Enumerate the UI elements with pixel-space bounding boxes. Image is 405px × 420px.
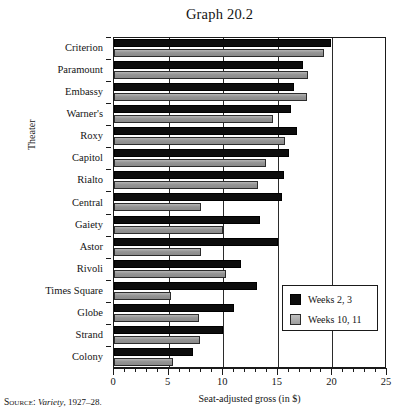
bar-weeks-10-11 [114, 226, 223, 234]
bar-weeks-2-3 [114, 348, 193, 356]
bar-weeks-2-3 [114, 216, 260, 224]
bar-weeks-2-3 [114, 193, 282, 201]
x-axis-minor-tick [211, 368, 212, 372]
y-axis-tick [106, 81, 111, 82]
x-axis-tick-label: 5 [165, 376, 170, 387]
y-axis-tick [106, 302, 111, 303]
source-publication: Variety [38, 397, 64, 407]
bar-row [114, 170, 385, 192]
y-axis-tick-labels: CriterionParamountEmbassyWarner'sRoxyCap… [0, 37, 111, 368]
bar-weeks-2-3 [114, 149, 289, 157]
bar-row [114, 126, 385, 148]
bar-weeks-2-3 [114, 105, 291, 113]
y-axis-tick-label: Rialto [77, 174, 103, 185]
source-note: Source: Variety, 1927–28. [4, 397, 102, 407]
y-axis-tick-label: Strand [76, 329, 103, 340]
legend-swatch-light-icon [290, 314, 301, 325]
bar-weeks-10-11 [114, 115, 273, 123]
x-axis-tick-label: 15 [272, 376, 283, 387]
bar-row [114, 60, 385, 82]
x-axis-major-tick [168, 368, 169, 375]
y-axis-tick [106, 103, 111, 104]
x-axis-minor-tick [342, 368, 343, 372]
chart-figure: Graph 20.2 Theater CriterionParamountEmb… [0, 0, 405, 420]
y-axis-tick-label: Times Square [45, 285, 103, 296]
bar-weeks-2-3 [114, 282, 257, 290]
x-axis-minor-tick [244, 368, 245, 372]
x-axis-minor-tick [135, 368, 136, 372]
bar-weeks-10-11 [114, 292, 171, 300]
source-years: , 1927–28. [63, 397, 101, 407]
y-axis-tick [106, 125, 111, 126]
bar-weeks-2-3 [114, 171, 284, 179]
y-axis-tick [106, 346, 111, 347]
y-axis-tick [106, 191, 111, 192]
y-axis-tick-label: Warner's [66, 108, 103, 119]
y-axis-tick [106, 258, 111, 259]
y-axis-tick-label: Globe [77, 307, 103, 318]
x-axis-minor-tick [310, 368, 311, 372]
bar-weeks-2-3 [114, 39, 331, 47]
bar-weeks-2-3 [114, 326, 223, 334]
y-axis-tick-label: Astor [80, 241, 103, 252]
bar-weeks-2-3 [114, 61, 303, 69]
x-axis-minor-tick [233, 368, 234, 372]
x-axis-minor-tick [299, 368, 300, 372]
bar-weeks-10-11 [114, 49, 324, 57]
y-axis-tick [106, 324, 111, 325]
x-axis-minor-tick [157, 368, 158, 372]
x-axis-minor-tick [364, 368, 365, 372]
bar-weeks-10-11 [114, 71, 308, 79]
bar-weeks-10-11 [114, 159, 266, 167]
bar-row [114, 104, 385, 126]
x-axis-minor-tick [288, 368, 289, 372]
legend-item-weeks-10-11: Weeks 10, 11 [290, 311, 362, 327]
legend-label: Weeks 10, 11 [308, 314, 362, 325]
x-axis-line [113, 368, 386, 369]
bar-weeks-10-11 [114, 203, 201, 211]
bar-weeks-10-11 [114, 336, 200, 344]
y-axis-tick-label: Roxy [80, 130, 103, 141]
bar-row [114, 237, 385, 259]
x-axis-major-tick [386, 368, 387, 375]
bar-weeks-10-11 [114, 248, 201, 256]
x-axis-minor-tick [189, 368, 190, 372]
bar-weeks-2-3 [114, 238, 278, 246]
x-axis-minor-tick [320, 368, 321, 372]
y-axis-tick [106, 169, 111, 170]
x-axis-minor-tick [146, 368, 147, 372]
x-axis-minor-tick [124, 368, 125, 372]
bar-weeks-2-3 [114, 304, 234, 312]
bar-row [114, 259, 385, 281]
bar-weeks-10-11 [114, 93, 307, 101]
x-axis-minor-tick [179, 368, 180, 372]
legend-item-weeks-2-3: Weeks 2, 3 [290, 291, 352, 307]
y-axis-tick-label: Paramount [58, 64, 104, 75]
y-axis-tick [106, 147, 111, 148]
y-axis-tick-label: Central [72, 197, 103, 208]
x-axis-major-tick [331, 368, 332, 375]
bar-weeks-10-11 [114, 181, 258, 189]
bar-weeks-10-11 [114, 137, 285, 145]
x-axis-minor-tick [200, 368, 201, 372]
x-axis-minor-tick [353, 368, 354, 372]
bar-row [114, 347, 385, 369]
x-axis-title: Seat-adjusted gross (in $) [113, 393, 386, 404]
y-axis-tick [106, 236, 111, 237]
x-axis-minor-tick [266, 368, 267, 372]
y-axis-tick-label: Rivoli [77, 263, 103, 274]
y-axis-tick-label: Criterion [65, 42, 103, 53]
y-axis-tick [106, 214, 111, 215]
y-axis-tick-label: Capitol [72, 152, 103, 163]
x-axis-tick-label: 10 [217, 376, 228, 387]
y-axis-tick-label: Colony [72, 351, 103, 362]
x-axis-tick-label: 0 [110, 376, 115, 387]
y-axis-tick [106, 280, 111, 281]
x-axis-minor-tick [255, 368, 256, 372]
bar-weeks-10-11 [114, 270, 226, 278]
legend-label: Weeks 2, 3 [308, 294, 352, 305]
source-prefix: Source: [4, 397, 36, 407]
bar-row [114, 192, 385, 214]
x-axis-major-tick [113, 368, 114, 375]
bar-weeks-10-11 [114, 314, 199, 322]
